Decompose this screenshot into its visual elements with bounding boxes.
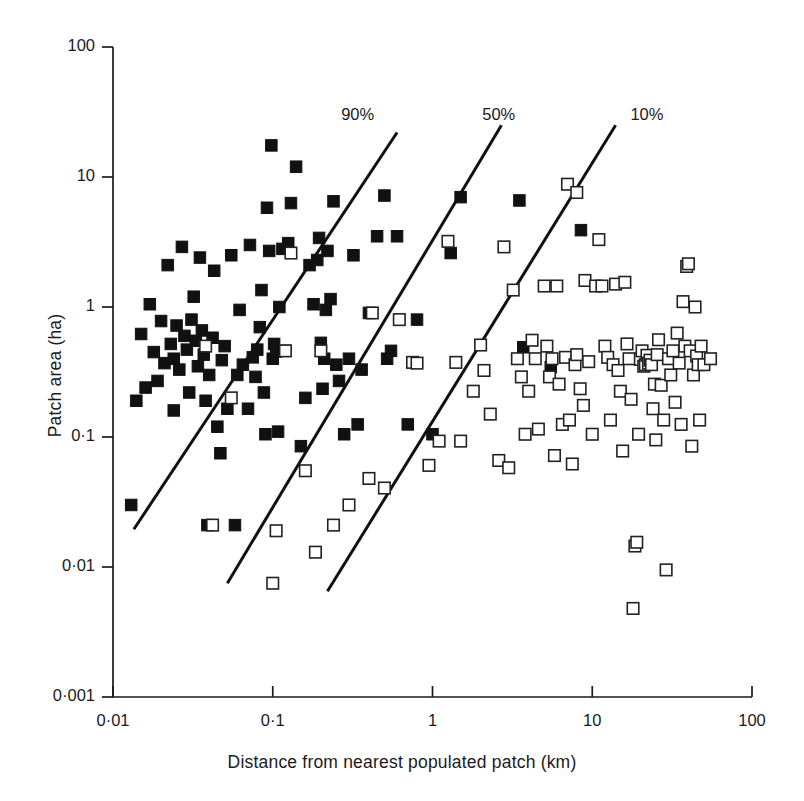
data-point-filled <box>402 419 414 431</box>
data-point-open <box>394 314 406 326</box>
data-point-open <box>574 383 586 395</box>
data-point-open <box>530 353 542 365</box>
data-point-open <box>658 414 670 426</box>
data-point-filled <box>331 359 343 371</box>
x-tick-label: 1 <box>373 711 493 730</box>
data-point-open <box>367 307 379 319</box>
x-tick-label: 0·1 <box>213 711 333 730</box>
data-point-filled <box>272 426 284 438</box>
data-point-filled <box>242 403 254 415</box>
y-tick-label: 0·001 <box>0 686 95 705</box>
plot-canvas <box>0 0 804 801</box>
data-point-filled <box>188 291 200 303</box>
data-point-open <box>686 440 698 452</box>
data-point-filled <box>208 265 220 277</box>
data-point-open <box>433 435 445 447</box>
data-point-open <box>673 357 685 369</box>
data-point-filled <box>135 328 147 340</box>
data-point-open <box>455 435 467 447</box>
data-point-open <box>538 280 550 292</box>
data-point-filled <box>338 429 350 441</box>
data-point-open <box>625 394 637 406</box>
data-point-open <box>541 340 553 352</box>
data-point-open <box>526 334 538 346</box>
data-point-open <box>653 334 665 346</box>
data-point-filled <box>148 346 160 358</box>
data-point-open <box>612 365 624 377</box>
data-point-filled <box>455 191 467 203</box>
data-point-filled <box>263 245 275 256</box>
data-point-filled <box>250 371 262 383</box>
data-point-open <box>310 546 322 558</box>
y-tick-label: 100 <box>0 36 95 55</box>
data-point-open <box>571 187 583 199</box>
data-point-open <box>270 525 282 537</box>
data-point-open <box>564 414 576 426</box>
data-point-filled <box>252 344 264 356</box>
data-point-open <box>533 423 545 435</box>
data-point-open <box>567 458 579 470</box>
data-point-open <box>631 537 643 549</box>
data-point-open <box>315 345 327 357</box>
data-point-filled <box>232 369 244 381</box>
data-point-filled <box>391 231 403 243</box>
data-point-filled <box>215 447 227 459</box>
data-point-open <box>516 371 528 383</box>
data-point-open <box>621 338 633 350</box>
data-point-open <box>650 434 662 446</box>
data-point-open <box>605 414 617 426</box>
data-point-open <box>694 414 706 426</box>
data-point-open <box>651 349 663 361</box>
data-point-filled <box>313 232 325 244</box>
data-point-filled <box>155 315 167 327</box>
y-tick-label: 0·1 <box>0 426 95 445</box>
data-point-filled <box>356 364 368 376</box>
x-tick-label: 0·01 <box>53 711 173 730</box>
data-point-open <box>300 465 312 477</box>
data-point-filled <box>379 190 391 202</box>
data-point-open <box>549 450 561 462</box>
data-point-open <box>267 577 279 589</box>
data-point-open <box>695 340 707 352</box>
data-point-open <box>675 419 687 431</box>
data-point-filled <box>192 361 204 373</box>
data-point-open <box>226 392 238 404</box>
data-point-open <box>677 296 689 308</box>
data-point-filled <box>514 195 526 207</box>
data-point-open <box>627 603 639 615</box>
data-point-filled <box>186 314 198 326</box>
data-point-open <box>411 357 423 369</box>
data-point-filled <box>385 345 397 357</box>
percentile-label: 50% <box>464 105 534 124</box>
data-point-filled <box>244 239 256 251</box>
data-point-filled <box>343 353 355 365</box>
data-point-open <box>423 460 435 472</box>
data-point-open <box>623 353 635 365</box>
data-point-open <box>615 385 627 397</box>
data-point-filled <box>295 440 307 452</box>
data-point-filled <box>165 338 177 350</box>
data-point-filled <box>229 519 241 531</box>
data-point-filled <box>174 364 186 376</box>
data-point-filled <box>274 301 286 313</box>
percentile-label: 90% <box>323 105 393 124</box>
data-point-filled <box>219 340 231 352</box>
data-point-open <box>485 408 497 420</box>
data-point-open <box>450 357 462 369</box>
data-point-open <box>478 365 490 377</box>
y-tick-label: 10 <box>0 166 95 185</box>
data-point-filled <box>258 387 270 399</box>
data-point-filled <box>333 375 345 387</box>
data-point-open <box>617 445 629 457</box>
data-point-filled <box>168 353 180 365</box>
scatter-plot-figure: Distance from nearest populated patch (k… <box>0 0 804 801</box>
x-axis-label: Distance from nearest populated patch (k… <box>0 752 804 773</box>
data-point-open <box>665 369 677 381</box>
data-point-open <box>583 356 595 368</box>
data-point-filled <box>325 293 337 305</box>
data-point-open <box>468 385 480 397</box>
data-point-open <box>207 519 219 531</box>
data-point-filled <box>194 252 206 264</box>
data-point-open <box>671 327 683 339</box>
data-point-open <box>667 345 679 357</box>
